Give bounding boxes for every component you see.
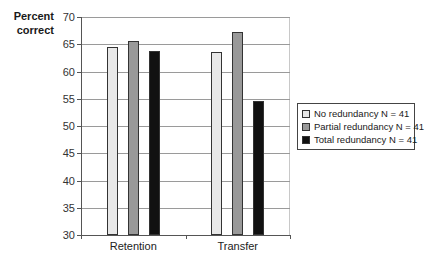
legend-swatch-icon xyxy=(302,136,310,144)
x-tick xyxy=(81,235,82,239)
y-axis-title-line1: Percent xyxy=(2,9,54,23)
y-tick-label: 65 xyxy=(51,38,75,50)
legend-item: Total redundancy N = 41 xyxy=(302,133,410,146)
y-tick-label: 45 xyxy=(51,147,75,159)
legend-item: Partial redundancy N = 41 xyxy=(302,120,410,133)
gridline xyxy=(81,44,290,45)
legend-item: No redundancy N = 41 xyxy=(302,107,410,120)
y-axis-line xyxy=(81,17,82,235)
legend-swatch-icon xyxy=(302,110,310,118)
bar-transfer-2 xyxy=(253,101,264,235)
y-tick-label: 40 xyxy=(51,175,75,187)
bar-retention-2 xyxy=(149,51,160,235)
y-axis-title: Percent correct xyxy=(2,9,54,37)
y-axis-title-line2: correct xyxy=(2,23,54,37)
x-category-label: Transfer xyxy=(198,240,278,252)
y-tick-label: 70 xyxy=(51,11,75,23)
legend: No redundancy N = 41Partial redundancy N… xyxy=(297,103,415,150)
legend-swatch-icon xyxy=(302,123,310,131)
legend-label: Total redundancy N = 41 xyxy=(314,133,417,146)
plot-area: 303540455055606570RetentionTransfer xyxy=(81,17,290,235)
y-tick-label: 50 xyxy=(51,120,75,132)
legend-label: No redundancy N = 41 xyxy=(314,107,409,120)
bar-retention-1 xyxy=(128,41,139,235)
bar-retention-0 xyxy=(107,47,118,235)
y-tick-label: 35 xyxy=(51,202,75,214)
y-tick-label: 55 xyxy=(51,93,75,105)
y-tick-label: 30 xyxy=(51,229,75,241)
y-tick-label: 60 xyxy=(51,66,75,78)
legend-label: Partial redundancy N = 41 xyxy=(314,120,424,133)
bar-transfer-0 xyxy=(211,52,222,235)
x-category-label: Retention xyxy=(93,240,173,252)
x-tick xyxy=(186,235,187,239)
x-tick xyxy=(290,235,291,239)
bar-transfer-1 xyxy=(232,32,243,235)
gridline xyxy=(81,17,290,18)
